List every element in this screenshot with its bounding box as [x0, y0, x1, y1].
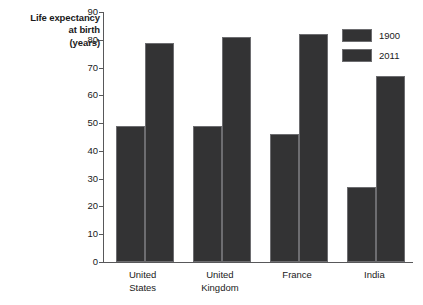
y-tick-label-70: 70	[68, 63, 98, 73]
y-tick-mark-0	[99, 262, 104, 263]
legend-swatch-2011	[342, 49, 372, 62]
x-axis-label-line-1: United	[129, 269, 156, 280]
legend-label-2011: 2011	[379, 51, 399, 61]
x-axis-label: India	[336, 269, 413, 282]
x-axis-label: UnitedKingdom	[181, 269, 258, 294]
bar[interactable]	[299, 34, 328, 262]
bar[interactable]	[347, 187, 376, 262]
y-tick-label-40: 40	[68, 146, 98, 156]
bar-group	[270, 12, 328, 262]
x-axis-label-line-2: Kingdom	[181, 282, 258, 295]
bar-group	[193, 12, 251, 262]
legend-label-1900: 1900	[379, 31, 400, 41]
x-axis-label-line-1: United	[206, 269, 233, 280]
bar-chart: Life expectancy at birth (years) 0102030…	[0, 0, 423, 305]
bar[interactable]	[270, 134, 299, 262]
y-tick-label-60: 60	[68, 90, 98, 100]
bar[interactable]	[222, 37, 251, 262]
bar[interactable]	[145, 43, 174, 262]
y-tick-label-50: 50	[68, 118, 98, 128]
chart-legend: 1900 2011	[342, 28, 416, 68]
x-axis-label-line-1: France	[282, 269, 312, 280]
legend-item-1900: 1900	[342, 28, 416, 43]
x-axis-line	[103, 262, 413, 263]
bar[interactable]	[193, 126, 222, 262]
x-axis-label: UnitedStates	[104, 269, 181, 294]
x-axis-label: France	[259, 269, 336, 282]
bar[interactable]	[116, 126, 145, 262]
x-axis-label-line-2: States	[104, 282, 181, 295]
y-tick-label-80: 80	[68, 35, 98, 45]
y-tick-label-0: 0	[68, 257, 98, 267]
bar-group	[116, 12, 174, 262]
legend-swatch-1900	[342, 29, 372, 42]
y-tick-label-10: 10	[68, 229, 98, 239]
legend-item-2011: 2011	[342, 48, 416, 63]
bar[interactable]	[376, 76, 405, 262]
x-axis-label-line-1: India	[364, 269, 385, 280]
y-tick-label-30: 30	[68, 174, 98, 184]
y-tick-label-90: 90	[68, 7, 98, 17]
y-tick-label-20: 20	[68, 201, 98, 211]
